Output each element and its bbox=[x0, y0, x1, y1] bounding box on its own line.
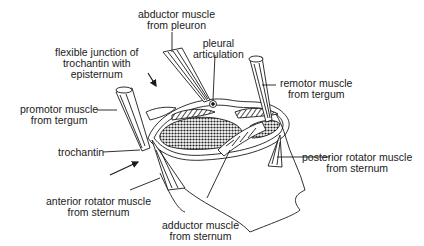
label-flexible-junction: flexible junction of trochantin with epi… bbox=[55, 47, 138, 80]
coxa-muscle-diagram: abductor muscle from pleuron pleural art… bbox=[0, 0, 424, 246]
label-posterior-rotator: posterior rotator muscle from sternum bbox=[302, 152, 412, 174]
label-pleural-articulation: pleural articulation bbox=[193, 38, 244, 60]
label-adductor-sternum: adductor muscle from sternum bbox=[162, 220, 239, 242]
label-trochantin: trochantin bbox=[58, 147, 104, 158]
label-promotor: promotor muscle from tergum bbox=[20, 104, 98, 126]
label-abductor-pleuron: abductor muscle from pleuron bbox=[138, 9, 215, 31]
label-remotor: remotor muscle from tergum bbox=[280, 78, 352, 100]
label-anterior-rotator: anterior rotator muscle from sternum bbox=[46, 196, 151, 218]
